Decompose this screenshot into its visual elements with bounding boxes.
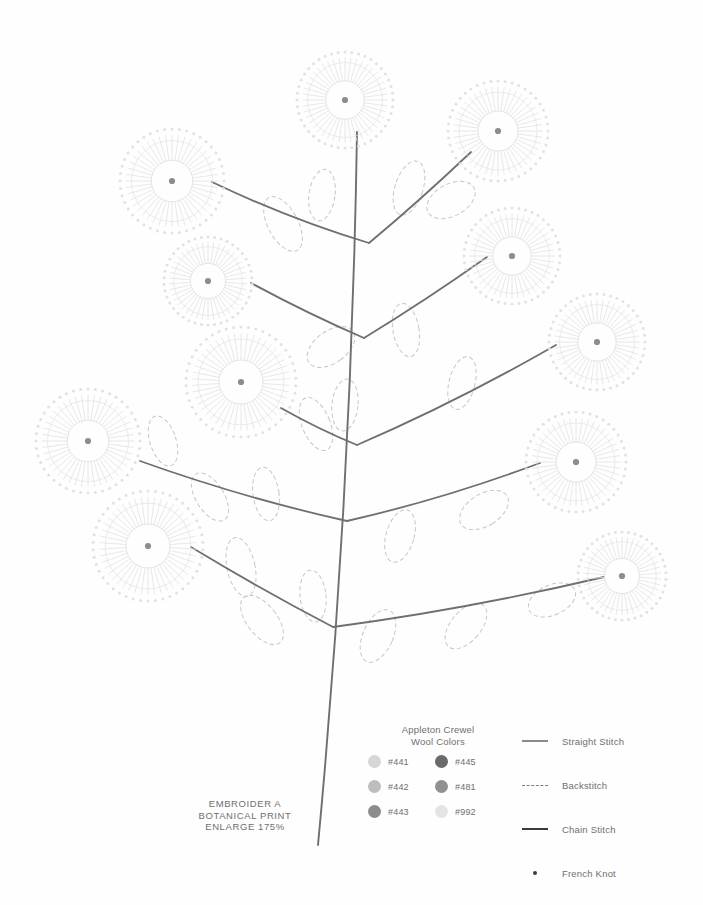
french-knot-icon <box>518 871 552 875</box>
flower-10-tip-knot-17 <box>645 611 648 614</box>
flower-1-ray-23 <box>492 151 495 175</box>
flower-7-tip-knot-0 <box>87 388 90 391</box>
swatch-item-481: #481 <box>435 780 476 793</box>
flower-5-center-french-knot <box>238 379 244 385</box>
flower-7-ray-1 <box>91 396 95 421</box>
flower-6-tip-knot-29 <box>555 366 558 369</box>
flower-4-tip-knot-0 <box>511 207 514 210</box>
flower-2-tip-knot-27 <box>136 219 139 222</box>
flower-7-tip-knot-12 <box>138 447 141 450</box>
flower-9-tip-knot-4 <box>175 498 178 501</box>
flower-1-ray-21 <box>501 151 504 175</box>
branch-1-right <box>369 152 471 243</box>
flower-2-tip-knot-6 <box>210 145 213 148</box>
flower-3-ray-32 <box>169 278 190 280</box>
flower-6-tip-knot-17 <box>627 377 630 380</box>
flower-2-tip-knot-5 <box>205 140 208 143</box>
flower-4-tip-knot-21 <box>517 302 520 305</box>
flower-3-tip-knot-37 <box>177 247 180 250</box>
flower-7-tip-knot-8 <box>134 418 137 421</box>
swatch-item-441: #441 <box>368 755 435 768</box>
flower-0-tip-knot-5 <box>375 62 378 65</box>
flower-5-ray-12 <box>263 384 289 386</box>
flower-5-tip-knot-39 <box>195 349 198 352</box>
flower-5-tip-knot-5 <box>274 338 277 341</box>
legend-wool-colors-title: Appleton Crewel Wool Colors <box>368 724 508 747</box>
legend-stitch-types: Straight Stitch Backstitch Chain Stitch … <box>518 730 678 884</box>
flower-2-tip-knot-9 <box>220 165 223 168</box>
flower-5-tip-knot-29 <box>199 418 202 421</box>
flower-0-tip-knot-39 <box>312 62 315 65</box>
flower-8-tip-knot-32 <box>525 468 528 471</box>
flower-6-tip-knot-23 <box>589 388 592 391</box>
flower-7-tip-knot-17 <box>121 479 124 482</box>
flower-0-tip-knot-20 <box>357 145 360 148</box>
flower-7-tip-knot-22 <box>87 492 90 495</box>
flower-2-tip-knot-10 <box>222 172 225 175</box>
flower-4-tip-knot-4 <box>536 214 539 217</box>
flower-1-ray-32 <box>454 134 478 137</box>
flower-2-tip-knot-7 <box>214 151 217 154</box>
flower-3-tip-knot-3 <box>226 240 229 243</box>
flower-7-tip-knot-37 <box>43 411 46 414</box>
flower-8-tip-knot-35 <box>527 446 530 449</box>
flower-2-tip-knot-13 <box>220 194 223 197</box>
flower-1-tip-knot-43 <box>489 80 492 83</box>
flower-1-tip-knot-38 <box>459 97 462 100</box>
flower-10-tip-knot-9 <box>663 565 666 568</box>
flower-9-tip-knot-16 <box>191 576 194 579</box>
flower-2-tip-knot-23 <box>163 231 166 234</box>
branch-5-right <box>357 345 556 445</box>
flower-3-tip-knot-1 <box>213 236 216 239</box>
flower-4-tip-knot-9 <box>557 241 560 244</box>
flower-7-tip-knot-6 <box>126 405 129 408</box>
flower-8-tip-knot-14 <box>620 481 623 484</box>
flower-1-tip-knot-11 <box>547 130 550 133</box>
flower-9-tip-knot-20 <box>168 595 171 598</box>
flower-0-tip-knot-38 <box>307 67 310 70</box>
flower-2-ray-23 <box>165 202 169 227</box>
flower-4-tip-knot-22 <box>511 303 514 306</box>
flower-5-ray-21 <box>247 403 254 428</box>
flower-1-ray-43 <box>492 87 495 111</box>
leaf-outline-9 <box>329 378 360 432</box>
flower-9-ray-44 <box>135 499 142 524</box>
flower-3-tip-knot-14 <box>245 302 248 305</box>
flower-8-ray-43 <box>570 418 573 442</box>
flower-2-ray-32 <box>127 184 152 188</box>
flower-6-tip-knot-26 <box>570 381 573 384</box>
flower-7 <box>35 388 142 495</box>
flower-2-tip-knot-41 <box>149 132 152 135</box>
flower-2-tip-knot-25 <box>149 227 152 230</box>
flower-5-tip-knot-17 <box>280 418 283 421</box>
flower-1-tip-knot-17 <box>529 167 532 170</box>
flower-8-tip-knot-40 <box>547 418 550 421</box>
leaf-outline-16 <box>297 569 328 623</box>
flower-8-tip-knot-27 <box>542 498 545 501</box>
flower-5-tip-knot-43 <box>218 330 221 333</box>
flower-5-ray-44 <box>228 335 235 360</box>
flower-7-ray-43 <box>81 396 85 421</box>
flower-10-tip-knot-24 <box>601 614 604 617</box>
flower-7-tip-knot-15 <box>130 468 133 471</box>
flower-10-tip-knot-1 <box>627 531 630 534</box>
flower-2-ray-1 <box>175 136 179 161</box>
flower-1-tip-knot-8 <box>542 109 545 112</box>
flower-2-tip-knot-42 <box>156 130 159 133</box>
flower-10-tip-knot-12 <box>663 584 666 587</box>
flower-0-ray-34 <box>303 94 326 97</box>
flower-10 <box>577 531 668 622</box>
flower-8-tip-knot-15 <box>617 488 620 491</box>
color-code-443: #443 <box>388 807 409 817</box>
flower-9-ray-45 <box>141 498 145 524</box>
flower-8-tip-knot-17 <box>607 498 610 501</box>
flower-8-tip-knot-12 <box>624 468 627 471</box>
flower-5-tip-knot-22 <box>247 435 250 438</box>
flower-9-tip-knot-7 <box>191 513 194 516</box>
flower-9-ray-11 <box>170 543 196 545</box>
flower-4-tip-knot-8 <box>554 235 557 238</box>
flower-8-tip-knot-6 <box>612 428 615 431</box>
flower-0-ray-32 <box>303 103 326 106</box>
flower-7-tip-knot-30 <box>39 461 42 464</box>
flower-0-ray-12 <box>364 103 387 106</box>
